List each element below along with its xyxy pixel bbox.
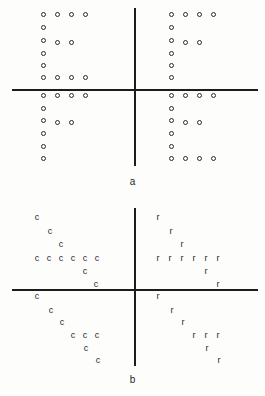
data-point-glyph-c: c [59, 240, 64, 249]
data-point-glyph-r: r [217, 254, 220, 263]
data-point-circle [41, 131, 46, 136]
data-point-circle [55, 93, 60, 98]
vertical-axis [134, 208, 136, 366]
data-point-circle [169, 51, 174, 56]
data-point-glyph-c: c [59, 254, 64, 263]
data-point-glyph-r: r [205, 331, 208, 340]
figure-panel-a: a [0, 0, 265, 198]
data-point-circle [169, 75, 174, 80]
data-point-circle [169, 12, 174, 17]
data-point-circle [41, 25, 46, 30]
data-point-glyph-c: c [83, 267, 88, 276]
data-point-glyph-r: r [193, 331, 196, 340]
data-point-circle [55, 75, 60, 80]
data-point-circle [197, 93, 202, 98]
data-point-circle [55, 12, 60, 17]
data-point-circle [169, 63, 174, 68]
data-point-circle [41, 118, 46, 123]
data-point-glyph-r: r [205, 254, 208, 263]
data-point-glyph-c: c [95, 254, 100, 263]
data-point-glyph-r: r [205, 267, 208, 276]
data-point-circle [83, 12, 88, 17]
data-point-circle [197, 120, 202, 125]
data-point-glyph-c: c [71, 331, 76, 340]
data-point-glyph-c: c [35, 213, 40, 222]
data-point-circle [69, 12, 74, 17]
data-point-circle [169, 131, 174, 136]
data-point-circle [169, 93, 174, 98]
data-point-glyph-r: r [157, 254, 160, 263]
data-point-circle [55, 40, 60, 45]
data-point-glyph-c: c [47, 254, 52, 263]
data-point-circle [197, 12, 202, 17]
data-point-glyph-c: c [49, 306, 54, 315]
data-point-circle [169, 25, 174, 30]
data-point-glyph-c: c [94, 280, 99, 289]
data-point-circle [69, 75, 74, 80]
data-point-glyph-c: c [48, 227, 53, 236]
data-point-circle [197, 156, 202, 161]
data-point-circle [41, 38, 46, 43]
data-point-glyph-r: r [217, 331, 220, 340]
data-point-glyph-c: c [71, 254, 76, 263]
data-point-glyph-r: r [157, 213, 160, 222]
data-point-glyph-r: r [182, 318, 185, 327]
panel-b-label: b [0, 374, 265, 385]
data-point-glyph-r: r [181, 240, 184, 249]
data-point-circle [83, 93, 88, 98]
data-point-circle [41, 156, 46, 161]
data-point-circle [169, 38, 174, 43]
data-point-circle [55, 120, 60, 125]
data-point-circle [41, 106, 46, 111]
data-point-circle [83, 75, 88, 80]
data-point-glyph-r: r [157, 292, 160, 301]
data-point-glyph-r: r [217, 280, 220, 289]
data-point-glyph-c: c [95, 331, 100, 340]
data-point-glyph-r: r [169, 254, 172, 263]
data-point-circle [169, 156, 174, 161]
data-point-circle [41, 51, 46, 56]
data-point-circle [211, 93, 216, 98]
data-point-circle [183, 156, 188, 161]
data-point-circle [183, 93, 188, 98]
data-point-circle [41, 12, 46, 17]
data-point-glyph-c: c [83, 331, 88, 340]
scatter-plot-a [0, 0, 265, 172]
vertical-axis [134, 8, 136, 166]
data-point-circle [69, 40, 74, 45]
data-point-circle [41, 93, 46, 98]
data-point-circle [183, 12, 188, 17]
data-point-glyph-c: c [84, 344, 89, 353]
scatter-plot-b: cccccccccccccccccccrrrrrrrrrrrrrrrrrrr [0, 198, 265, 370]
data-point-glyph-r: r [206, 344, 209, 353]
data-point-circle [169, 118, 174, 123]
data-point-glyph-c: c [35, 292, 40, 301]
data-point-glyph-c: c [83, 254, 88, 263]
data-point-circle [183, 120, 188, 125]
data-point-circle [69, 93, 74, 98]
data-point-glyph-c: c [96, 356, 101, 365]
data-point-circle [41, 63, 46, 68]
figure-panel-b: cccccccccccccccccccrrrrrrrrrrrrrrrrrrr b [0, 198, 265, 396]
data-point-glyph-r: r [170, 227, 173, 236]
data-point-circle [183, 40, 188, 45]
data-point-circle [197, 40, 202, 45]
data-point-circle [169, 106, 174, 111]
data-point-glyph-c: c [35, 254, 40, 263]
data-point-circle [69, 120, 74, 125]
data-point-glyph-r: r [193, 254, 196, 263]
data-point-glyph-c: c [60, 318, 65, 327]
data-point-glyph-r: r [218, 356, 221, 365]
data-point-glyph-r: r [181, 254, 184, 263]
data-point-circle [169, 144, 174, 149]
data-point-circle [211, 12, 216, 17]
data-point-glyph-r: r [171, 306, 174, 315]
data-point-circle [211, 156, 216, 161]
data-point-circle [41, 144, 46, 149]
panel-a-label: a [0, 176, 265, 187]
data-point-circle [41, 75, 46, 80]
